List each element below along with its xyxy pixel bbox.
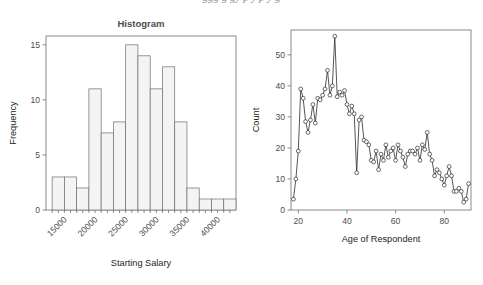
age-count-data-point [437,171,441,175]
age-count-ytick-label: 30 [275,112,285,122]
histogram-y-axis-title: Frequency [8,101,18,145]
histogram-bar [175,122,187,210]
age-count-data-point [379,152,383,156]
age-count-data-point [352,112,356,116]
histogram-title: Histogram [118,18,165,29]
age-count-data-point [347,112,351,116]
age-count-data-point [377,168,381,172]
age-count-data-point [382,158,386,162]
histogram-bar [64,177,76,210]
age-count-data-point [459,189,463,193]
age-count-ytick-label: 20 [275,143,285,153]
age-count-data-point [420,143,424,147]
histogram-bar [101,133,113,210]
histogram-bar [77,188,89,210]
histogram-xtick-label: 20000 [75,214,99,238]
age-count-data-point [445,174,449,178]
age-count-data-point [374,149,378,153]
age-count-data-point [425,131,429,135]
age-count-xtick-label: 60 [391,216,401,226]
age-count-data-point [391,146,395,150]
age-count-data-point [292,197,296,201]
age-count-data-point [403,165,407,169]
age-count-data-point [355,171,359,175]
age-count-data-point [423,148,427,152]
age-count-data-point [323,87,327,91]
histogram-bar [138,56,150,210]
age-count-data-point [418,158,422,162]
histogram-xtick-label: 25000 [106,214,130,238]
histogram-svg: Histogram0510151500020000250003000035000… [0,14,243,276]
histogram-ytick-label: 10 [30,95,40,105]
age-count-panel: 0102030405020406080Age of RespondentCoun… [243,14,483,276]
histogram-xtick-label: 40000 [198,214,222,238]
age-count-data-point [335,95,339,99]
histogram-bar [199,199,211,210]
age-count-data-point [360,115,364,119]
age-count-ytick-label: 10 [275,174,285,184]
age-count-data-point [394,158,398,162]
age-count-data-point [399,149,403,153]
histogram-x-axis-title: Starting Salary [111,258,172,268]
age-count-data-point [467,182,471,186]
age-count-ytick-label: 40 [275,81,285,91]
histogram-bar [52,177,64,210]
age-count-data-point [416,146,420,150]
age-count-data-point [440,177,444,181]
age-count-data-point [384,143,388,147]
age-count-data-point [413,152,417,156]
age-count-ytick-label: 0 [280,205,285,215]
age-count-data-point [372,160,376,164]
age-count-data-point [296,149,300,153]
histogram-bar [89,89,101,210]
histogram-bar [113,122,125,210]
age-count-data-point [450,174,454,178]
age-count-data-point [306,131,310,135]
age-count-data-point [304,120,308,124]
histogram-xtick-label: 30000 [137,214,161,238]
age-count-xtick-label: 80 [439,216,449,226]
age-count-data-point [309,118,313,122]
histogram-ytick-label: 5 [35,150,40,160]
histogram-xtick-label: 35000 [167,214,191,238]
histogram-bar [224,199,236,210]
histogram-xtick-label: 15000 [45,214,69,238]
age-count-data-point [299,87,303,91]
age-count-data-point [313,121,317,125]
age-count-data-point [447,165,451,169]
age-count-data-point [328,93,332,97]
age-count-data-point [311,103,315,107]
age-count-data-point [430,158,434,162]
age-count-data-point [396,143,400,147]
histogram-bar [150,89,162,210]
age-count-data-point [294,177,298,181]
cut-off-caption: ggg g gy p y p y g [0,0,483,5]
histogram-bar [187,188,199,210]
histogram-ytick-label: 15 [30,40,40,50]
histogram-panel: Histogram0510151500020000250003000035000… [0,14,243,276]
age-count-data-point [330,84,334,88]
age-count-data-point [343,89,347,93]
histogram-bar [162,67,174,210]
age-count-data-point [428,152,432,156]
age-count-data-point [340,93,344,97]
age-count-xtick-label: 20 [294,216,304,226]
age-count-data-point [318,98,322,102]
figure-container: ggg g gy p y p y g Histogram051015150002… [0,0,483,285]
age-count-data-point [326,68,330,72]
age-count-data-point [401,155,405,159]
age-count-y-axis-title: Count [251,107,261,132]
age-count-data-point [367,143,371,147]
age-count-x-axis-title: Age of Respondent [342,234,421,244]
age-count-data-point [301,96,305,100]
age-count-data-point [433,174,437,178]
age-count-data-point [321,93,325,97]
age-count-data-point [386,155,390,159]
age-count-xtick-label: 40 [342,216,352,226]
age-count-data-point [333,34,337,38]
histogram-bar [211,199,223,210]
age-count-data-point [464,197,468,201]
age-count-data-point [345,103,349,107]
age-count-svg: 0102030405020406080Age of RespondentCoun… [243,14,483,276]
histogram-bar [126,45,138,210]
